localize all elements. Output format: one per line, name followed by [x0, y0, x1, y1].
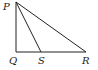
segment-pr	[16, 2, 86, 52]
triangle-diagram: P Q S R	[0, 0, 98, 70]
label-s: S	[38, 55, 45, 66]
segment-ps	[16, 2, 41, 52]
label-p: P	[2, 1, 10, 12]
label-q: Q	[9, 55, 17, 66]
label-r: R	[81, 55, 90, 66]
